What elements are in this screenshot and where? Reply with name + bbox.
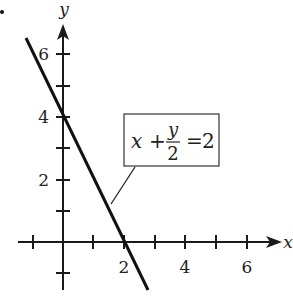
equation-equals: = <box>186 129 203 153</box>
y-tick-label-6: 6 <box>38 44 49 64</box>
equation-plus: + <box>149 129 166 153</box>
annotation-leader-line <box>111 167 135 204</box>
graph-svg: 2 4 6 2 4 6 x y x + y 2 = 2 <box>0 0 293 302</box>
line-graph-figure: 2 4 6 2 4 6 x y x + y 2 = 2 <box>0 0 293 302</box>
equation-denominator: 2 <box>167 143 178 164</box>
y-axis-label: y <box>58 0 69 19</box>
x-axis-label: x <box>283 232 293 252</box>
y-tick-label-4: 4 <box>38 107 49 127</box>
x-tick-label-4: 4 <box>180 257 191 277</box>
y-axis <box>56 24 70 290</box>
y-tick-label-2: 2 <box>38 170 49 190</box>
equation-rhs: 2 <box>202 129 215 153</box>
x-tick-label-6: 6 <box>242 257 253 277</box>
x-tick-label-2: 2 <box>119 257 130 277</box>
equation-numerator: y <box>167 119 179 140</box>
bullet-marker <box>0 10 4 14</box>
equation-x: x <box>131 129 142 153</box>
x-axis <box>18 235 282 249</box>
